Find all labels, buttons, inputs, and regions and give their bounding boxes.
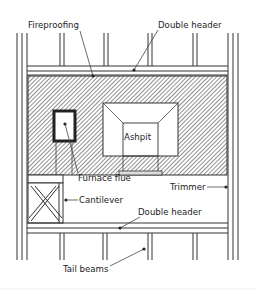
cantilever-block bbox=[28, 175, 63, 223]
framing-diagram: Ashpit Fireproofing Double header bbox=[0, 0, 255, 292]
bottom-tail-beams bbox=[60, 233, 197, 260]
callout-double-header-top: Double header bbox=[132, 20, 222, 72]
trimmer-label: Trimmer bbox=[169, 182, 206, 192]
callout-tail-beams: Tail beams bbox=[62, 247, 146, 274]
right-trimmer bbox=[228, 33, 238, 260]
double-header-top-label: Double header bbox=[158, 20, 222, 30]
callout-double-header-bottom: Double header bbox=[118, 207, 202, 230]
callout-fireproofing: Fireproofing bbox=[28, 20, 95, 78]
top-double-header bbox=[27, 66, 228, 75]
bottom-double-header bbox=[27, 223, 228, 233]
top-tail-beams bbox=[60, 33, 197, 66]
furnace-flue-label: Furnace flue bbox=[78, 173, 131, 183]
cantilever-label: Cantilever bbox=[79, 195, 124, 205]
fireproofing-label: Fireproofing bbox=[28, 20, 79, 30]
callout-trimmer: Trimmer bbox=[169, 182, 228, 192]
callout-cantilever: Cantilever bbox=[64, 195, 123, 205]
tail-beams-label: Tail beams bbox=[62, 264, 109, 274]
ashpit-label: Ashpit bbox=[124, 132, 152, 142]
left-trimmer bbox=[17, 33, 27, 260]
double-header-bottom-label: Double header bbox=[138, 207, 202, 217]
